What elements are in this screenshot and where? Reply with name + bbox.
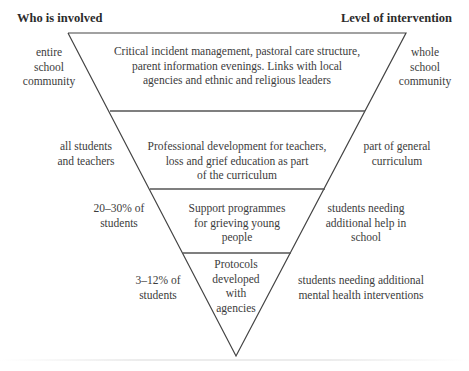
text-line: students [86,216,152,231]
text-line: additional help in [316,216,416,231]
text-line: school [392,60,458,75]
text-line: developed [201,272,271,287]
header-level-of-intervention: Level of intervention [341,11,452,26]
text-line: curriculum [352,154,442,169]
text-line: all students [50,139,122,154]
text-line: with [201,286,271,301]
tier-4-content: Protocols developed with agencies [201,257,271,315]
text-line: school [18,60,80,75]
tier-3-content: Support programmes for grieving young pe… [162,201,312,245]
text-line: Support programmes [162,201,312,216]
text-line: Professional development for teachers, [128,139,346,154]
text-line: loss and grief education as part [128,154,346,169]
tier-1-who: entire school community [18,45,80,89]
tier-2-content: Professional development for teachers, l… [128,139,346,183]
text-line: whole [392,45,458,60]
tier-4-who: 3–12% of students [128,273,188,302]
text-line: students [128,288,188,303]
text-line: people [162,230,312,245]
tier-3-who: 20–30% of students [86,201,152,230]
text-line: entire [18,45,80,60]
text-line: Critical incident management, pastoral c… [92,44,382,59]
tier-1-content: Critical incident management, pastoral c… [92,44,382,88]
text-line: community [18,74,80,89]
text-line: community [392,74,458,89]
text-line: 3–12% of [128,273,188,288]
text-line: 20–30% of [86,201,152,216]
page-shadow [0,359,469,361]
tier-3-level: students needing additional help in scho… [316,201,416,245]
header-who-is-involved: Who is involved [17,11,102,26]
text-line: part of general [352,139,442,154]
tier-2-level: part of general curriculum [352,139,442,168]
text-line: Protocols [201,257,271,272]
text-line: agencies and ethnic and religious leader… [92,73,382,88]
text-line: students needing additional [282,273,440,288]
text-line: students needing [316,201,416,216]
tier-4-level: students needing additional mental healt… [282,273,440,302]
tier-1-level: whole school community [392,45,458,89]
text-line: and teachers [50,154,122,169]
text-line: school [316,230,416,245]
text-line: agencies [201,301,271,316]
text-line: for grieving young [162,216,312,231]
text-line: mental health interventions [282,288,440,303]
text-line: parent information evenings. Links with … [92,59,382,74]
tier-2-who: all students and teachers [50,139,122,168]
text-line: of the curriculum [128,168,346,183]
